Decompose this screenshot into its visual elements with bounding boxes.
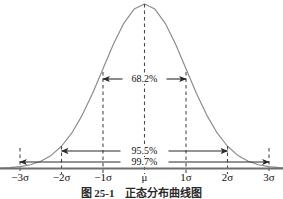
x-tick-label-0: −3σ: [11, 172, 29, 183]
normal-distribution-plot: [0, 0, 283, 199]
bell-curve: [0, 4, 283, 168]
x-tick-label-6: 3σ: [263, 172, 274, 183]
percentage-label-two-sigma: 95.5%: [130, 146, 160, 156]
x-tick-label-1: −2σ: [53, 172, 71, 183]
x-tick-label-2: −1σ: [94, 172, 112, 183]
x-tick-label-5: 2σ: [222, 172, 233, 183]
percentage-label-one-sigma: 68.2%: [130, 74, 160, 84]
normal-distribution-figure: −3σ−2σ−1σμ1σ2σ3σ 68.2%95.5%99.7% 图 25-1 …: [0, 0, 283, 199]
x-tick-label-3: μ: [142, 172, 148, 183]
x-tick-label-4: 1σ: [180, 172, 191, 183]
percentage-label-three-sigma: 99.7%: [130, 157, 160, 167]
figure-caption: 图 25-1 正态分布曲线图: [0, 187, 283, 199]
